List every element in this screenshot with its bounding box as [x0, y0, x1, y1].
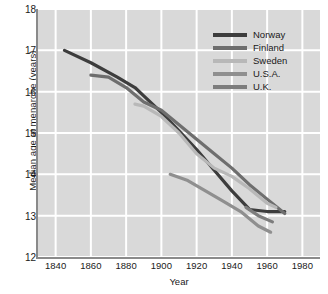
legend-item-norway[interactable]: Norway [213, 28, 287, 41]
legend-swatch [213, 85, 247, 89]
x-axis-label: Year [38, 276, 320, 287]
legend: NorwayFinlandSwedenU.S.A.U.K. [213, 28, 287, 93]
y-axis-line [36, 9, 38, 259]
x-tick-label: 1940 [212, 260, 252, 271]
x-tick-label: 1880 [106, 260, 146, 271]
menarche-age-line-chart: Median age at menarche (years) Year 1213… [0, 0, 328, 294]
legend-label: Sweden [253, 55, 287, 66]
legend-swatch [213, 46, 247, 50]
y-tick-label: 15 [10, 128, 36, 139]
y-tick-label: 17 [10, 45, 36, 56]
legend-item-u-s-a[interactable]: U.S.A. [213, 67, 287, 80]
y-tick-label: 18 [10, 4, 36, 15]
legend-swatch [213, 72, 247, 76]
legend-label: U.K. [253, 81, 271, 92]
legend-swatch [213, 33, 247, 37]
x-tick-label: 1980 [282, 260, 322, 271]
y-tick-label: 12 [10, 252, 36, 263]
legend-item-u-k[interactable]: U.K. [213, 80, 287, 93]
x-axis-line [38, 257, 320, 259]
legend-label: U.S.A. [253, 68, 280, 79]
x-tick-label: 1900 [141, 260, 181, 271]
y-tick-label: 13 [10, 210, 36, 221]
y-tick-label: 16 [10, 86, 36, 97]
x-tick-label: 1920 [177, 260, 217, 271]
legend-swatch [213, 59, 247, 63]
x-tick-label: 1840 [36, 260, 76, 271]
legend-label: Norway [253, 29, 285, 40]
legend-item-sweden[interactable]: Sweden [213, 54, 287, 67]
series-line-u-s-a [170, 174, 270, 232]
legend-item-finland[interactable]: Finland [213, 41, 287, 54]
y-tick-label: 14 [10, 169, 36, 180]
x-tick-label: 1960 [247, 260, 287, 271]
x-tick-label: 1860 [71, 260, 111, 271]
legend-label: Finland [253, 42, 284, 53]
